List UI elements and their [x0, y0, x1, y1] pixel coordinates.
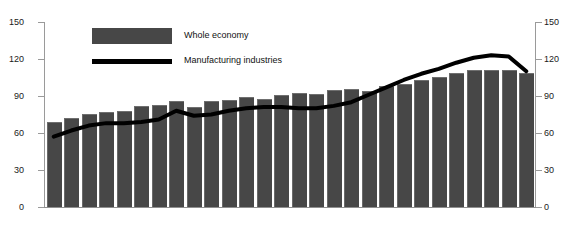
legend-label-whole-economy: Whole economy: [184, 30, 249, 41]
chart-legend: Whole economy Manufacturing industries: [92, 28, 322, 70]
y-tick-left-150: [38, 22, 44, 23]
y-tick-right-150: [536, 22, 542, 23]
y-tick-left-0: [38, 207, 44, 208]
y-tick-left-30: [38, 170, 44, 171]
line-swatch-icon: [92, 59, 172, 64]
y-axis-right-tick-90: 90: [544, 92, 568, 101]
y-axis-right-tick-30: 30: [544, 166, 568, 175]
y-tick-right-90: [536, 96, 542, 97]
y-axis-left-tick-120: 120: [2, 55, 24, 64]
y-axis-left-tick-0: 0: [2, 203, 24, 212]
y-axis-right-line: [535, 22, 536, 207]
y-axis-left-tick-90: 90: [2, 92, 24, 101]
y-tick-left-120: [38, 59, 44, 60]
bar-swatch-icon: [92, 28, 172, 44]
y-tick-left-60: [38, 133, 44, 134]
y-axis-right-tick-120: 120: [544, 55, 568, 64]
y-axis-left-tick-30: 30: [2, 166, 24, 175]
y-axis-right-tick-150: 150: [544, 18, 568, 27]
y-axis-right-tick-60: 60: [544, 129, 568, 138]
clipped-header-text: [30, 0, 460, 6]
chart-container: 150 120 90 60 30 0 150 120 90 60 30 0 Wh…: [0, 0, 584, 229]
y-tick-right-60: [536, 133, 542, 134]
y-tick-right-30: [536, 170, 542, 171]
y-axis-right-tick-0: 0: [544, 203, 568, 212]
x-axis-baseline: [44, 207, 536, 208]
y-tick-right-0: [536, 207, 542, 208]
y-tick-left-90: [38, 96, 44, 97]
y-tick-right-120: [536, 59, 542, 60]
y-axis-left-tick-150: 150: [2, 18, 24, 27]
y-axis-left-tick-60: 60: [2, 129, 24, 138]
legend-label-manufacturing-industries: Manufacturing industries: [184, 55, 282, 66]
